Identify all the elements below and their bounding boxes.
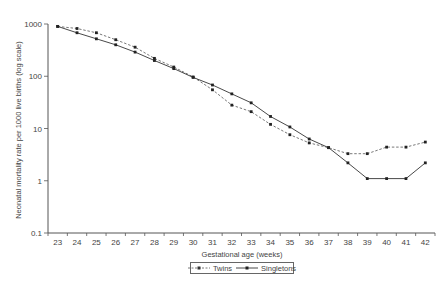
- data-point: [114, 43, 117, 46]
- data-point: [172, 67, 175, 70]
- x-tick-label: 29: [169, 238, 178, 247]
- x-tick-label: 27: [131, 238, 140, 247]
- series-twins: [56, 25, 426, 155]
- data-point: [366, 177, 369, 180]
- data-point: [327, 146, 330, 149]
- data-point: [95, 37, 98, 40]
- data-point: [134, 51, 137, 54]
- legend: Twins Singletons: [190, 262, 294, 274]
- data-point: [269, 123, 272, 126]
- data-point: [211, 88, 214, 91]
- data-point: [366, 152, 369, 155]
- legend-item-twins: Twins: [188, 264, 232, 273]
- data-point: [424, 141, 427, 144]
- x-tick-label: 31: [208, 238, 217, 247]
- legend-item-singletons: Singletons: [236, 264, 296, 273]
- x-tick-label: 38: [343, 238, 352, 247]
- solid-line-marker-icon: [236, 265, 258, 271]
- data-point: [192, 76, 195, 79]
- x-tick-label: 37: [324, 238, 333, 247]
- data-point: [405, 177, 408, 180]
- x-axis-title: Gestational age (weeks): [202, 250, 283, 259]
- data-point: [347, 152, 350, 155]
- x-tick-label: 39: [363, 238, 372, 247]
- series-layer: [56, 25, 426, 180]
- x-tick-label: 33: [247, 238, 256, 247]
- x-tick-label: 40: [382, 238, 391, 247]
- legend-label-singletons: Singletons: [261, 264, 296, 273]
- x-axis: 2324252627282930313233343536373839404142: [48, 233, 435, 247]
- x-tick-label: 35: [285, 238, 294, 247]
- y-tick-label: 0.1: [31, 229, 43, 238]
- y-tick-label: 100: [29, 72, 43, 81]
- data-point: [211, 84, 214, 87]
- data-point: [288, 126, 291, 129]
- data-point: [76, 31, 79, 34]
- x-tick-label: 32: [227, 238, 236, 247]
- y-tick-label: 1: [38, 177, 43, 186]
- y-tick-label: 1000: [24, 20, 42, 29]
- data-point: [405, 146, 408, 149]
- data-point: [114, 38, 117, 41]
- data-point: [347, 161, 350, 164]
- data-point: [308, 142, 311, 145]
- legend-label-twins: Twins: [213, 264, 232, 273]
- data-point: [385, 146, 388, 149]
- data-point: [56, 25, 59, 28]
- data-point: [134, 46, 137, 49]
- x-tick-label: 25: [92, 238, 101, 247]
- y-axis: 0.11101001000: [24, 20, 48, 238]
- x-tick-label: 28: [150, 238, 159, 247]
- data-point: [269, 115, 272, 118]
- data-point: [308, 138, 311, 141]
- x-tick-label: 23: [53, 238, 62, 247]
- x-tick-label: 41: [402, 238, 411, 247]
- x-tick-label: 24: [73, 238, 82, 247]
- series-singletons: [56, 25, 426, 180]
- x-tick-label: 42: [421, 238, 430, 247]
- x-tick-label: 36: [305, 238, 314, 247]
- data-point: [95, 31, 98, 34]
- data-point: [153, 59, 156, 62]
- x-tick-label: 26: [111, 238, 120, 247]
- data-point: [288, 133, 291, 136]
- data-point: [385, 177, 388, 180]
- mortality-chart: 0.11101001000 23242526272829303132333435…: [0, 0, 447, 295]
- data-point: [250, 110, 253, 113]
- data-point: [250, 101, 253, 104]
- data-point: [230, 104, 233, 107]
- data-point: [424, 161, 427, 164]
- data-point: [230, 92, 233, 95]
- y-tick-label: 10: [33, 125, 42, 134]
- x-tick-label: 34: [266, 238, 275, 247]
- y-axis-title: Neonatal mortality rate per 1000 live bi…: [14, 41, 23, 219]
- x-tick-label: 30: [189, 238, 198, 247]
- data-point: [76, 27, 79, 30]
- dashed-line-marker-icon: [188, 265, 210, 271]
